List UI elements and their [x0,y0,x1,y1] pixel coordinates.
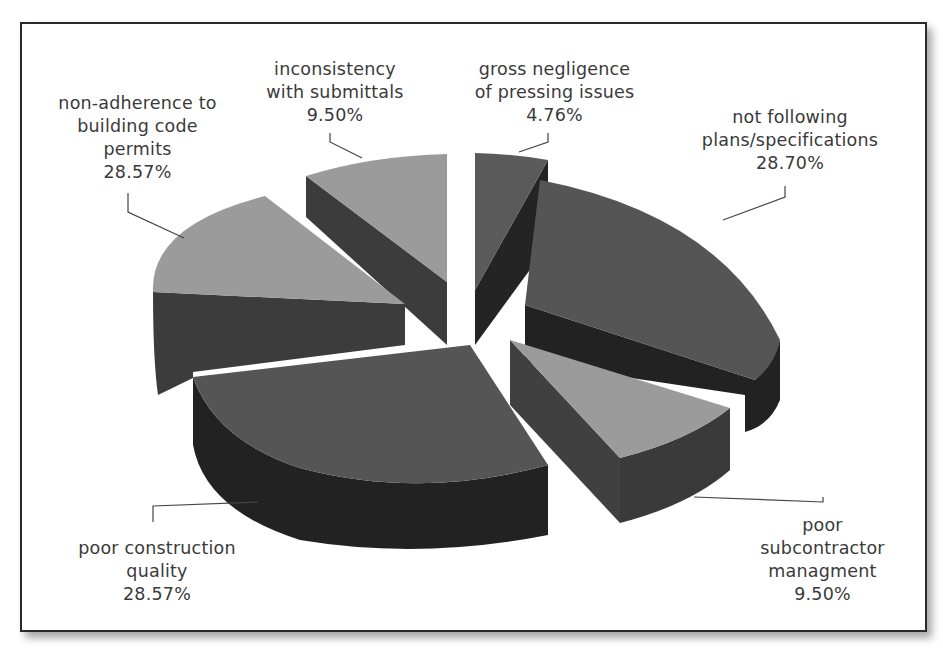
leader-gross-negligence [519,133,548,152]
label-non-adherence: non-adherence to building code permits 2… [45,92,230,184]
leader-not-following [723,186,785,220]
slice-poor-construction [193,345,548,549]
leader-inconsistency [330,133,362,158]
label-not-following: not following plans/specifications 28.70… [690,106,890,175]
label-poor-construction: poor construction quality 28.57% [62,537,252,606]
label-inconsistency: inconsistency with submittals 9.50% [255,58,415,127]
label-gross-negligence: gross negligence of pressing issues 4.76… [467,58,642,127]
leader-non-adherence [128,193,184,238]
leader-poor-subcontractor [694,497,823,502]
label-poor-subcontractor: poor subcontractor managment 9.50% [750,514,895,606]
